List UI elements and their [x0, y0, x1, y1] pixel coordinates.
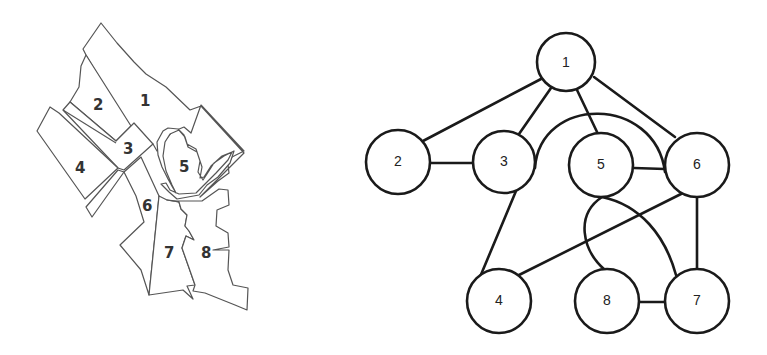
graph-edges — [423, 77, 697, 302]
node-label-4: 4 — [495, 292, 503, 308]
node-label-2: 2 — [394, 153, 402, 169]
edge-1-2 — [423, 79, 541, 141]
edge-3-4 — [480, 191, 516, 277]
edge-1-3 — [519, 88, 551, 134]
figure-canvas: 1 2 3 4 5 6 7 8 1 — [0, 0, 767, 355]
graph-node-1: 1 — [537, 33, 595, 91]
edge-1-6 — [594, 77, 675, 137]
edge-5-6 — [634, 168, 665, 169]
node-label-7: 7 — [693, 292, 701, 308]
adjacency-graph: 1 2 3 5 6 4 8 — [366, 33, 729, 333]
map-label-4: 4 — [75, 159, 85, 177]
graph-node-4: 4 — [467, 269, 531, 333]
node-label-1: 1 — [562, 54, 570, 70]
node-label-8: 8 — [603, 292, 611, 308]
map-region-5 — [157, 128, 234, 199]
graph-nodes: 1 2 3 5 6 4 8 — [366, 33, 729, 333]
map-label-8: 8 — [201, 244, 211, 262]
map-label-1: 1 — [140, 92, 150, 110]
graph-node-6: 6 — [665, 133, 729, 197]
graph-node-2: 2 — [366, 130, 430, 194]
district-map: 1 2 3 4 5 6 7 8 — [37, 23, 248, 310]
edge-5-7-arc — [602, 197, 676, 275]
map-label-5: 5 — [179, 158, 189, 176]
graph-node-5: 5 — [569, 133, 633, 197]
graph-node-7: 7 — [665, 269, 729, 333]
map-label-2: 2 — [93, 96, 103, 114]
graph-node-3: 3 — [473, 131, 535, 193]
map-label-7: 7 — [164, 244, 174, 262]
map-label-6: 6 — [142, 197, 152, 215]
node-label-3: 3 — [500, 153, 508, 169]
node-label-6: 6 — [693, 156, 701, 172]
map-label-3: 3 — [123, 140, 133, 158]
edge-1-5 — [577, 90, 598, 134]
graph-node-8: 8 — [575, 269, 639, 333]
node-label-5: 5 — [597, 156, 605, 172]
